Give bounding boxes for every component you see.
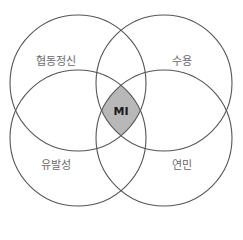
label-bottom-left: 유발성	[41, 156, 71, 172]
label-top-left: 협동정신	[36, 52, 76, 68]
label-center: MI	[113, 105, 128, 118]
center-intersection	[96, 70, 232, 206]
label-bottom-right: 연민	[172, 156, 192, 172]
label-top-right: 수용	[172, 52, 192, 68]
